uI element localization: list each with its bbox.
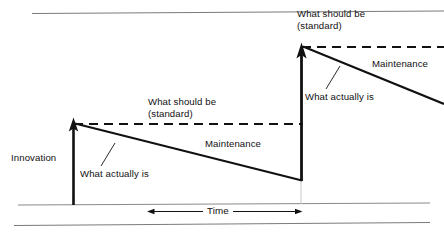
figure-container: Innovation What should be (standard) Wha… [0,0,444,233]
bottom-rule [14,223,430,226]
leader-line-actually-1 [101,143,115,166]
leader-line-actually-2 [326,66,340,89]
time-axis-right-arrowhead [295,209,303,214]
label-maintenance-2: Maintenance [372,58,428,70]
diagram-canvas [0,0,444,233]
label-time-axis: Time [207,205,229,217]
label-what-actually-is-1: What actually is [80,168,149,180]
top-rule [32,11,444,14]
label-standard-2: What should be (standard) [297,8,365,31]
label-what-actually-is-2: What actually is [305,91,374,103]
label-maintenance-1: Maintenance [205,138,261,150]
time-axis-left-arrowhead [147,209,155,214]
label-innovation: Innovation [11,152,56,164]
label-standard-1: What should be (standard) [148,96,216,119]
